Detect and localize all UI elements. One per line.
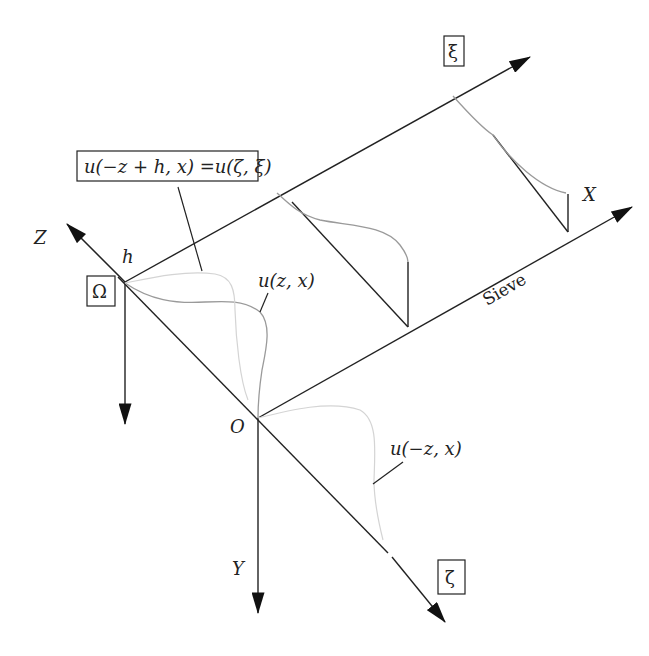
sieve-label: Sieve (479, 269, 530, 310)
u-zeta-xi-curve (125, 273, 248, 400)
u-minus-zx-leader (373, 462, 403, 484)
u-zx-leader (260, 293, 268, 312)
u-zx-label: u(z, x) (258, 270, 315, 291)
origin-label: O (230, 416, 245, 437)
y-axis-label: Y (232, 558, 246, 579)
zeta-axis (118, 277, 388, 553)
profile-2-diagonal (292, 202, 408, 327)
diagram-canvas: u(−z + h, x) =u(ζ, ξ) Ω ξ ζ Z h O Y X u(… (0, 0, 649, 656)
u-minus-zx-curve (258, 406, 383, 540)
zeta-axis-tail (392, 557, 445, 622)
z-axis-label: Z (33, 227, 47, 248)
xi-label: ξ (448, 41, 458, 62)
x-axis-sieve (258, 207, 632, 418)
u-zx-curve (125, 283, 267, 418)
equation-label: u(−z + h, x) =u(ζ, ξ) (84, 156, 271, 177)
profile-2-curve (277, 193, 408, 262)
z-axis (67, 224, 125, 282)
u-minus-zx-label: u(−z, x) (390, 438, 462, 459)
x-axis-label: X (581, 184, 597, 205)
profile-3-curve (453, 96, 566, 193)
h-label: h (122, 246, 134, 267)
equation-leader (178, 187, 202, 271)
omega-label: Ω (92, 281, 107, 302)
zeta-label: ζ (445, 567, 455, 588)
